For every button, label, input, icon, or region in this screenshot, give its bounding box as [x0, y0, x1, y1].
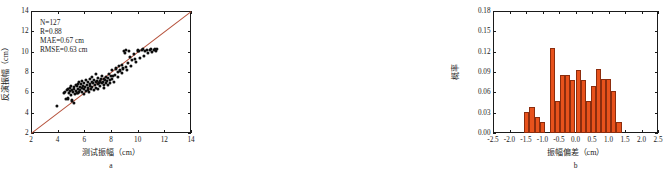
panel-b-histogram: -2.5-2.0-1.5-1.0-0.50.00.51.01.52.02.50.… — [228, 0, 456, 176]
panel-b-y-tick — [493, 11, 496, 12]
panel-a-x-tick-label: 4 — [56, 136, 60, 144]
panel-b-x-tick-top — [592, 11, 593, 14]
panel-a-scatter: 24681012142468101214N=127R=0.88MAE=0.67 … — [0, 0, 228, 176]
panel-a-x-tick — [138, 130, 139, 133]
panel-a-annotation-line: MAE=0.67 cm — [40, 36, 88, 45]
panel-a-y-tick — [31, 113, 34, 114]
panel-a-y-tick — [31, 52, 34, 53]
panel-a-y-tick-label: 8 — [15, 68, 29, 76]
panel-a-y-tick-label: 10 — [15, 48, 29, 56]
panel-b-y-tick-right — [655, 11, 658, 12]
panel-a-x-tick-label: 8 — [109, 136, 113, 144]
panel-a-y-tick-label: 4 — [15, 109, 29, 117]
histogram-bar — [540, 122, 545, 133]
panel-b-x-tick-label: -1.0 — [537, 136, 548, 144]
panel-b-x-tick-top — [609, 11, 610, 14]
panel-a-x-tick-label: 14 — [187, 136, 194, 144]
panel-b-x-tick-top — [625, 11, 626, 14]
panel-a-y-tick-label: 12 — [15, 27, 29, 35]
panel-b-x-tick — [510, 130, 511, 133]
panel-b-x-tick-label: 0.5 — [588, 136, 597, 144]
panel-b-y-tick-label: 0.00 — [471, 129, 491, 137]
panel-a-annotation-line: N=127 — [40, 18, 88, 27]
panel-a-y-tick — [31, 11, 34, 12]
panel-b-y-tick-label: 0.15 — [471, 27, 491, 35]
panel-b-caption: b — [574, 161, 578, 170]
panel-b-x-tick-top — [510, 11, 511, 14]
panel-b-y-tick — [493, 92, 496, 93]
panel-b-y-tick — [493, 52, 496, 53]
panel-b-x-axis-title: 振幅偏差（cm） — [547, 146, 605, 157]
panel-b-x-tick-label: -2.0 — [504, 136, 515, 144]
panel-b-x-tick — [625, 130, 626, 133]
panel-b-y-axis-title: 概率 — [449, 64, 460, 80]
panel-b-y-tick — [493, 113, 496, 114]
panel-b-x-tick-label: 1.0 — [604, 136, 613, 144]
panel-a-x-tick-top — [164, 11, 165, 14]
panel-a-y-tick — [31, 31, 34, 32]
panel-b-y-tick-right — [655, 133, 658, 134]
panel-a-y-tick-label: 6 — [15, 88, 29, 96]
panel-b-y-tick-right — [655, 31, 658, 32]
panel-a-x-tick — [164, 130, 165, 133]
panel-a-x-tick — [58, 130, 59, 133]
panel-a-y-tick — [31, 92, 34, 93]
panel-b-x-tick-label: 0.0 — [571, 136, 580, 144]
panel-b-x-tick-label: -0.5 — [553, 136, 564, 144]
panel-b-y-tick-right — [655, 92, 658, 93]
panel-a-x-tick-top — [138, 11, 139, 14]
panel-a-x-tick-label: 6 — [83, 136, 87, 144]
panel-a-y-tick-right — [188, 52, 191, 53]
panel-b-x-tick-label: 1.5 — [621, 136, 630, 144]
panel-b-y-tick-label: 0.03 — [471, 109, 491, 117]
panel-b-y-tick — [493, 133, 496, 134]
panel-b-y-tick-right — [655, 52, 658, 53]
panel-a-x-tick-label: 10 — [134, 136, 141, 144]
panel-a-annotation-line: R=0.88 — [40, 27, 88, 36]
panel-a-y-tick — [31, 72, 34, 73]
panel-a-x-axis-title: 测试振幅（cm） — [82, 146, 140, 157]
panel-a-y-tick-label: 2 — [15, 129, 29, 137]
panel-a-y-tick-right — [188, 92, 191, 93]
panel-b-y-tick-label: 0.09 — [471, 68, 491, 76]
panel-a-x-tick-label: 2 — [29, 136, 33, 144]
panel-a-y-tick-right — [188, 113, 191, 114]
panel-b-x-tick-label: -1.5 — [520, 136, 531, 144]
panel-b-y-tick-right — [655, 113, 658, 114]
panel-a-x-tick — [84, 130, 85, 133]
panel-a-y-axis-title: 反演振幅（cm） — [0, 43, 10, 101]
panel-a-y-tick-right — [188, 133, 191, 134]
panel-b-x-tick-label: 2.5 — [654, 136, 663, 144]
panel-a-x-tick-top — [84, 11, 85, 14]
panel-b-y-tick-label: 0.18 — [471, 7, 491, 15]
panel-b-y-tick-right — [655, 72, 658, 73]
panel-b-y-tick — [493, 72, 496, 73]
panel-a-caption: a — [109, 161, 112, 170]
panel-a-x-tick-top — [58, 11, 59, 14]
panel-a-y-tick-label: 14 — [15, 7, 29, 15]
panel-b-y-tick — [493, 31, 496, 32]
panel-b-x-tick-top — [642, 11, 643, 14]
panel-a-y-tick-right — [188, 72, 191, 73]
histogram-bar — [616, 122, 621, 133]
panel-a-x-tick — [191, 130, 192, 133]
panel-b-x-tick — [642, 130, 643, 133]
panel-b-y-tick-label: 0.06 — [471, 88, 491, 96]
panel-a-x-tick-top — [111, 11, 112, 14]
panel-b-x-tick — [658, 130, 659, 133]
panel-a-x-tick — [111, 130, 112, 133]
panel-b-x-tick-top — [526, 11, 527, 14]
panel-a-x-tick-label: 12 — [161, 136, 168, 144]
panel-a-annotation-line: RMSE=0.63 cm — [40, 45, 88, 54]
panel-b-x-tick-label: 2.0 — [637, 136, 646, 144]
panel-b-x-tick-top — [658, 11, 659, 14]
panel-a-statistics-annotation: N=127R=0.88MAE=0.67 cmRMSE=0.63 cm — [40, 18, 88, 54]
panel-a-y-tick-right — [188, 31, 191, 32]
panel-b-x-tick-top — [559, 11, 560, 14]
panel-b-y-tick-label: 0.12 — [471, 48, 491, 56]
panel-b-x-tick-top — [543, 11, 544, 14]
panel-b-x-tick-top — [576, 11, 577, 14]
